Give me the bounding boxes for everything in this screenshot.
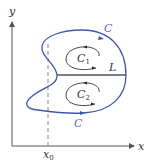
c2-arrow-bottom-icon [91, 103, 95, 106]
c2-arrow-top-icon [83, 82, 87, 85]
c1-arrow-top-icon [83, 46, 87, 49]
curve-arrow-top-icon [98, 36, 104, 40]
c2-label: C2 [77, 88, 90, 102]
x-axis-label: x [138, 140, 145, 153]
curve-label-bottom: C [74, 117, 83, 130]
curve-arrow-bottom-icon [80, 111, 85, 115]
line-l-label: L [108, 61, 116, 74]
c1-label: C1 [77, 52, 90, 66]
c1-arrow-bottom-icon [92, 67, 96, 70]
x0-label: x0 [43, 148, 54, 162]
y-axis-label: y [8, 5, 16, 18]
curve-label-top: C [104, 22, 113, 35]
region-decomposition-diagram: y x x0 C C C1 C2 L [0, 0, 152, 162]
